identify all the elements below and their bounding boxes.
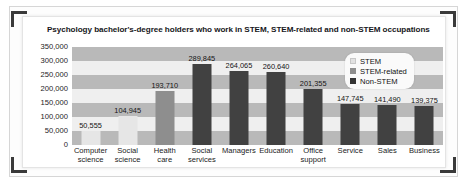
bar-group[interactable]: 260,640	[258, 47, 295, 145]
legend-label: Non-STEM	[360, 77, 398, 86]
bar[interactable]: 289,845	[192, 64, 211, 145]
chart-title: Psychology bachelor's-degree holders who…	[47, 25, 439, 34]
x-axis-label-line: services	[179, 156, 224, 165]
bar-value-label: 260,640	[263, 63, 290, 71]
x-axis-label-line: support	[291, 156, 336, 165]
bar-value-label: 104,945	[114, 107, 141, 115]
legend-item[interactable]: STEM-related	[350, 66, 407, 76]
y-axis-tick-label: 150,000	[23, 99, 68, 107]
y-axis-tick-label: 200,000	[23, 85, 68, 93]
bar-group[interactable]: 193,710	[146, 47, 183, 145]
bar[interactable]: 104,945	[118, 116, 137, 145]
legend-swatch-icon	[350, 78, 356, 84]
bar[interactable]: 147,745	[341, 104, 360, 145]
bar-group[interactable]: 264,065	[220, 47, 257, 145]
bar[interactable]: 193,710	[155, 91, 174, 145]
legend-item[interactable]: Non-STEM	[350, 76, 407, 86]
y-axis-tick-label: 100,000	[23, 113, 68, 121]
legend-item[interactable]: STEM	[350, 56, 407, 66]
bar-value-label: 50,555	[79, 122, 102, 130]
x-axis-label-line: Business	[402, 147, 447, 156]
legend-swatch-icon	[350, 58, 356, 64]
y-axis-tick-label: 300,000	[23, 57, 68, 65]
bar-value-label: 141,490	[374, 96, 401, 104]
bar-group[interactable]: 104,945	[109, 47, 146, 145]
bar[interactable]: 141,490	[378, 105, 397, 145]
y-axis-tick-label: 350,000	[23, 43, 68, 51]
legend-label: STEM-related	[360, 67, 407, 76]
bar-value-label: 289,845	[188, 55, 215, 63]
bar-value-label: 147,745	[337, 95, 364, 103]
bar-value-label: 264,065	[226, 62, 253, 70]
chart-panel: Psychology bachelor's-degree holders who…	[22, 16, 446, 168]
bar-group[interactable]: 50,555	[72, 47, 109, 145]
bar[interactable]: 50,555	[81, 131, 100, 145]
legend-swatch-icon	[350, 68, 356, 74]
bar-group[interactable]: 289,845	[183, 47, 220, 145]
bar-value-label: 193,710	[151, 82, 178, 90]
bar-value-label: 201,355	[300, 80, 327, 88]
bar[interactable]: 264,065	[229, 71, 248, 145]
chart-legend: STEMSTEM-relatedNon-STEM	[345, 53, 414, 89]
y-axis-tick-label: 250,000	[23, 71, 68, 79]
y-axis-tick-label: 50,000	[23, 127, 68, 135]
y-axis-tick-label: 0	[23, 141, 68, 149]
bar[interactable]: 260,640	[267, 72, 286, 145]
legend-label: STEM	[360, 57, 381, 66]
x-axis: ComputerscienceSocialscienceHealthcareSo…	[72, 147, 443, 169]
bar[interactable]: 201,355	[304, 89, 323, 145]
bar[interactable]: 139,375	[415, 106, 434, 145]
bar-group[interactable]: 201,355	[295, 47, 332, 145]
x-axis-category-label: Business	[402, 147, 447, 156]
bar-value-label: 139,375	[411, 97, 438, 105]
figure-frame: Psychology bachelor's-degree holders who…	[0, 0, 467, 184]
